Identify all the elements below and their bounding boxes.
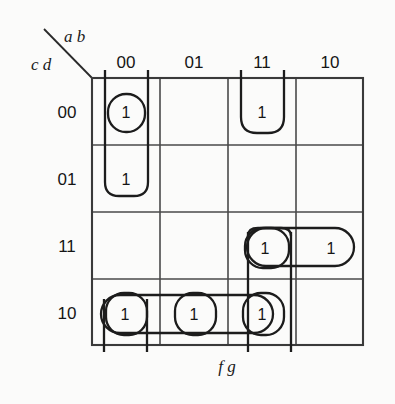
row-header-3: 10 — [58, 304, 77, 323]
group-loop-col11-row00-wrap — [241, 70, 284, 133]
column-header-0: 00 — [117, 53, 136, 72]
column-header-1: 01 — [185, 53, 204, 72]
cell-r10-c00: 1 — [121, 306, 130, 323]
cell-r11-c10: 1 — [327, 240, 336, 257]
axis-label-left: c d — [31, 55, 52, 74]
cell-r11-c11: 1 — [261, 240, 270, 257]
karnaugh-map-canvas: a b c d f g 00 01 11 10 00 01 11 10 — [0, 0, 395, 404]
axis-label-top: a b — [64, 27, 85, 46]
row-header-1: 01 — [58, 170, 77, 189]
cell-r10-c11: 1 — [258, 306, 267, 323]
cell-r00-c11: 1 — [258, 104, 267, 121]
row-header-0: 00 — [58, 103, 77, 122]
row-header-2: 11 — [58, 237, 76, 256]
column-header-2: 11 — [253, 53, 271, 72]
cell-r00-c00: 1 — [122, 104, 131, 121]
cell-r10-c01: 1 — [190, 306, 199, 323]
column-header-3: 10 — [321, 53, 340, 72]
cell-r01-c00: 1 — [122, 171, 131, 188]
axis-label-bottom: f g — [218, 357, 235, 376]
karnaugh-map-figure: a b c d f g 00 01 11 10 00 01 11 10 — [0, 0, 395, 404]
grid-lines — [92, 78, 363, 345]
